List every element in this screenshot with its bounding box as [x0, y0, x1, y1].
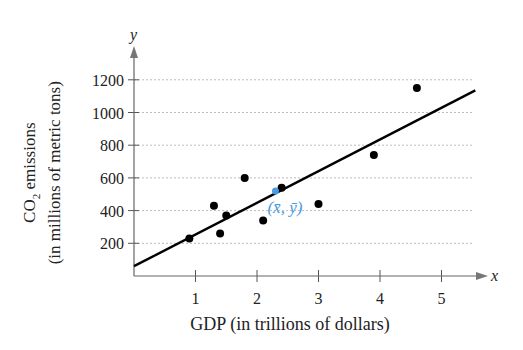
data-point — [241, 174, 249, 182]
data-point — [315, 200, 323, 208]
gridlines — [134, 80, 472, 244]
data-point — [185, 234, 193, 242]
data-point — [210, 202, 218, 210]
scatter-chart: 2004006008001000120012345yx (x̄, ȳ) — [0, 0, 523, 350]
svg-text:2: 2 — [253, 290, 261, 307]
data-points — [185, 84, 421, 242]
data-point — [216, 229, 224, 237]
axes: 2004006008001000120012345yx — [92, 26, 498, 307]
data-point — [413, 84, 421, 92]
data-point — [370, 151, 378, 159]
svg-text:400: 400 — [100, 203, 124, 220]
data-point — [222, 212, 230, 220]
svg-text:(x̄, ȳ): (x̄, ȳ) — [267, 198, 302, 217]
svg-text:4: 4 — [376, 290, 384, 307]
svg-text:600: 600 — [100, 170, 124, 187]
svg-text:1000: 1000 — [92, 105, 124, 122]
svg-text:3: 3 — [315, 290, 323, 307]
svg-text:y: y — [128, 26, 138, 44]
svg-text:800: 800 — [100, 137, 124, 154]
svg-text:1: 1 — [192, 290, 200, 307]
x-axis-label: GDP (in trillions of dollars) — [130, 314, 450, 335]
svg-text:5: 5 — [438, 290, 446, 307]
data-point — [259, 216, 267, 224]
svg-text:200: 200 — [100, 235, 124, 252]
svg-text:x: x — [490, 267, 498, 284]
regression-line — [134, 90, 475, 266]
mean-point-annotation: (x̄, ȳ) — [267, 187, 302, 217]
svg-text:1200: 1200 — [92, 72, 124, 89]
y-axis-label: CO2 emissions (in millions of metric ton… — [20, 48, 65, 298]
